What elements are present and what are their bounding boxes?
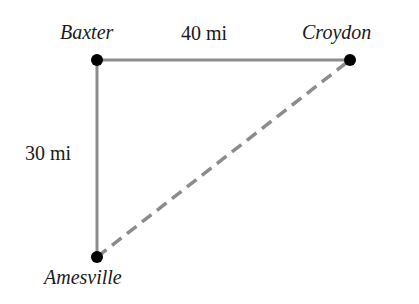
label-amesville: Amesville xyxy=(44,266,122,289)
dot-amesville xyxy=(91,251,103,263)
label-croydon: Croydon xyxy=(302,21,371,44)
label-distance-baxter-croydon: 40 mi xyxy=(181,22,227,45)
dot-croydon xyxy=(344,54,356,66)
edge-amesville-croydon-dashed xyxy=(97,60,350,257)
label-distance-baxter-amesville: 30 mi xyxy=(25,142,71,165)
label-baxter: Baxter xyxy=(60,21,113,44)
dot-baxter xyxy=(91,54,103,66)
